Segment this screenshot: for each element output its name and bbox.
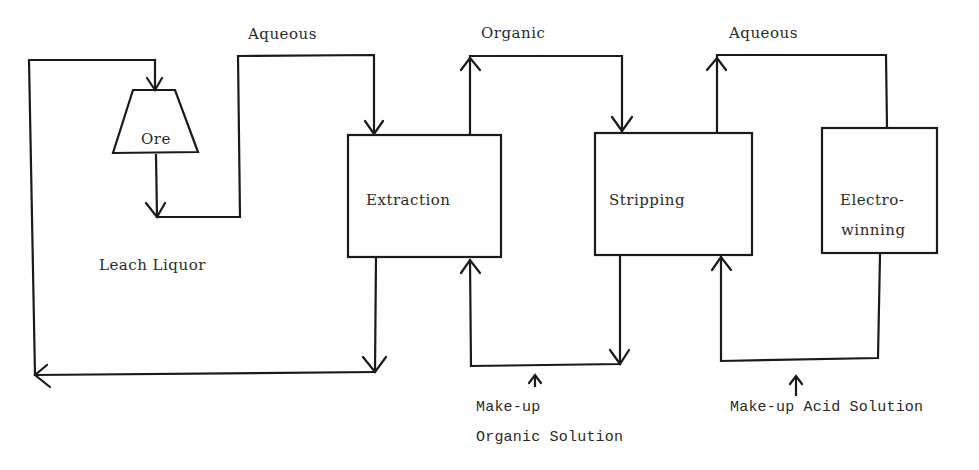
organic-label: Organic <box>481 26 545 41</box>
aqueous-label-1: Aqueous <box>248 27 317 42</box>
organic-line <box>461 56 632 135</box>
arrowhead-down-icon <box>146 203 165 217</box>
makeup-organic-label-line2: Organic Solution <box>476 430 623 445</box>
electrowinning-label-line2: winning <box>841 223 906 238</box>
electrowinning-label-line1: Electro- <box>840 193 904 208</box>
leach-liquor-label: Leach Liquor <box>99 258 206 273</box>
organic-return-line <box>461 255 629 386</box>
extraction-raffinate-line <box>363 257 386 372</box>
acid-return-line <box>712 255 880 395</box>
makeup-organic-label-line1: Make-up <box>476 400 540 415</box>
extraction-label: Extraction <box>366 193 450 208</box>
makeup-acid-label: Make-up Acid Solution <box>730 400 923 415</box>
stripping-label: Stripping <box>609 193 685 208</box>
leach-liquor-recycle-line <box>29 60 375 387</box>
aqueous-label-2: Aqueous <box>729 26 798 41</box>
ore-label: Ore <box>141 132 171 147</box>
aqueous-stripping-line <box>707 55 887 133</box>
